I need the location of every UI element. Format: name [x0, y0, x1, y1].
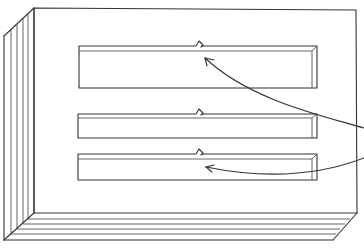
leader-arrow-bottom — [206, 158, 364, 174]
board-side-layers — [4, 8, 34, 240]
slot-top — [79, 41, 317, 88]
leader-arrow-top — [205, 58, 364, 128]
slot-middle — [78, 109, 317, 138]
board-bottom-layers — [4, 213, 357, 240]
board-front-face — [34, 8, 357, 213]
layered-board-diagram — [0, 0, 364, 248]
slot-bottom — [78, 149, 317, 180]
